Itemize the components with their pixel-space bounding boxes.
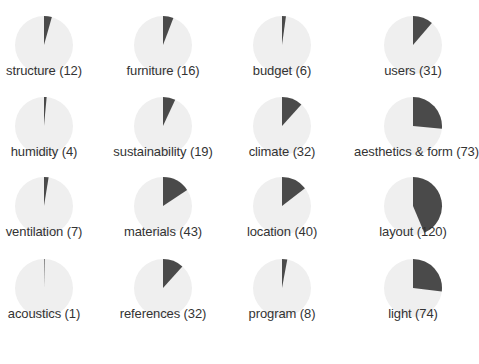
pie-panel: sustainability (19) bbox=[104, 81, 222, 163]
pie-label: location (40) bbox=[223, 224, 341, 239]
pie-panel: climate (32) bbox=[223, 81, 341, 163]
pie-panel: references (32) bbox=[104, 243, 222, 325]
pie-label: budget (6) bbox=[223, 63, 341, 78]
pie-label: climate (32) bbox=[223, 144, 341, 159]
pie-label: ventilation (7) bbox=[0, 224, 103, 239]
pie-label: acoustics (1) bbox=[0, 306, 103, 321]
pie-label: aesthetics & form (73) bbox=[354, 144, 472, 159]
pie-label: layout (120) bbox=[354, 224, 472, 239]
pie-label: structure (12) bbox=[0, 63, 103, 78]
pie-panel: humidity (4) bbox=[0, 81, 103, 163]
pie-label: humidity (4) bbox=[0, 144, 103, 159]
pie-panel: program (8) bbox=[223, 243, 341, 325]
pie-panel: ventilation (7) bbox=[0, 161, 103, 243]
pie-panel: materials (43) bbox=[104, 161, 222, 243]
pie-label: furniture (16) bbox=[104, 63, 222, 78]
pie-slice bbox=[413, 259, 442, 291]
pie-panel: location (40) bbox=[223, 161, 341, 243]
pie-panel: budget (6) bbox=[223, 0, 341, 82]
pie-label: references (32) bbox=[104, 306, 222, 321]
pie-panel: aesthetics & form (73) bbox=[354, 81, 472, 163]
pie-label: materials (43) bbox=[104, 224, 222, 239]
pie-panel: acoustics (1) bbox=[0, 243, 103, 325]
pie-label: users (31) bbox=[354, 63, 472, 78]
pie-label: light (74) bbox=[354, 306, 472, 321]
pie-panel: light (74) bbox=[354, 243, 472, 325]
pie-panel: layout (120) bbox=[354, 161, 472, 243]
pie-panel: users (31) bbox=[354, 0, 472, 82]
pie-label: program (8) bbox=[223, 306, 341, 321]
pie-panel: furniture (16) bbox=[104, 0, 222, 82]
pie-slice bbox=[413, 97, 442, 129]
pie-label: sustainability (19) bbox=[104, 144, 222, 159]
pie-panel: structure (12) bbox=[0, 0, 103, 82]
